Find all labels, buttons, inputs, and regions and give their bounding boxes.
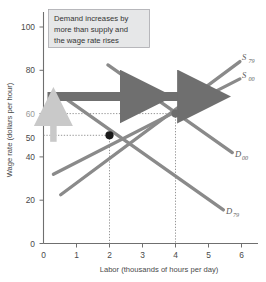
curve-label-s00: S 00	[242, 70, 255, 82]
curve-label-d79: D 79	[225, 206, 239, 218]
demand-curve-d79	[59, 94, 223, 210]
curve-label-d00-sub: 00	[242, 155, 248, 161]
y-tick-label-20: 20	[26, 195, 36, 205]
curve-label-s79-base: S	[242, 52, 247, 62]
x-axis-ticks	[77, 244, 242, 248]
annotation-line-1: Demand increases by	[54, 14, 129, 23]
demand-curve-d00	[108, 65, 232, 153]
curve-label-s00-sub: 00	[249, 76, 255, 82]
x-tick-label-1: 1	[74, 250, 79, 260]
chart-canvas: 0 20 40 50 60 80 100 0 1 2 3 4 5 6 Labor…	[0, 0, 266, 282]
x-tick-label-4: 4	[173, 250, 178, 260]
y-axis-ticks	[40, 27, 44, 244]
y-tick-label-80: 80	[26, 65, 36, 75]
initial-equilibrium-point	[105, 131, 113, 139]
x-tick-label-6: 6	[239, 250, 244, 260]
curve-label-s79-sub: 79	[249, 58, 255, 64]
annotation-box: Demand increases by more than supply and…	[49, 10, 150, 48]
curve-label-d79-base: D	[225, 206, 233, 216]
new-equilibrium-point	[171, 110, 179, 118]
x-tick-label-0: 0	[41, 250, 46, 260]
annotation-line-3: the wage rate rises	[54, 36, 119, 45]
supply-demand-chart: 0 20 40 50 60 80 100 0 1 2 3 4 5 6 Labor…	[0, 0, 266, 282]
y-tick-label-50: 50	[26, 133, 36, 143]
y-axis-title: Wage rate (dollars per hour)	[5, 82, 14, 177]
y-tick-label-40: 40	[26, 152, 36, 162]
y-tick-label-100: 100	[21, 22, 35, 32]
x-tick-label-5: 5	[206, 250, 211, 260]
annotation-line-2: more than supply and	[54, 25, 128, 34]
supply-curve-s79	[61, 62, 240, 195]
curve-label-s00-base: S	[242, 70, 247, 80]
y-tick-label-0: 0	[30, 239, 35, 249]
curve-label-d79-sub: 79	[233, 212, 239, 218]
x-axis-title: Labor (thousands of hours per day)	[100, 265, 219, 274]
y-tick-label-60: 60	[26, 109, 36, 119]
curve-label-d00: D 00	[234, 149, 248, 161]
curve-label-d00-base: D	[234, 149, 242, 159]
x-tick-label-2: 2	[107, 250, 112, 260]
curve-label-s79: S 79	[242, 52, 255, 64]
x-tick-label-3: 3	[140, 250, 145, 260]
